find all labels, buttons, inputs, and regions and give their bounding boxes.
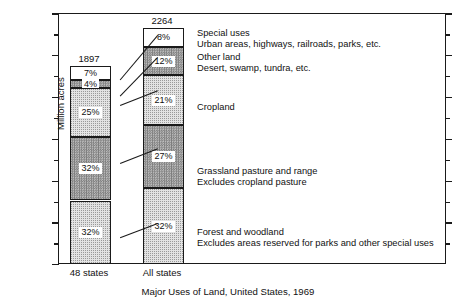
legend-other-land: Other land Desert, swamp, tundra, etc. xyxy=(197,52,311,74)
segment-percent-label: 27% xyxy=(152,151,174,162)
y-tick-minor-200 xyxy=(54,243,59,244)
legend-grassland-title: Grassland pasture and range xyxy=(197,166,317,177)
y-tick-major-right-400 xyxy=(445,222,452,223)
legend-forest-sub: Excludes areas reserved for parks and ot… xyxy=(197,238,434,249)
y-tick-major-1200 xyxy=(52,139,59,140)
chart-container: 0 400 800 1200 1600 2000 2400 xyxy=(0,0,456,304)
y-tick-major-right-2000 xyxy=(445,55,452,56)
segment-other-land-all: 12% xyxy=(143,47,184,75)
y-tick-minor-1000 xyxy=(54,160,59,161)
category-label-all-states: All states xyxy=(122,268,202,278)
y-tick-major-right-1600 xyxy=(445,97,452,98)
segment-forest-all: 32% xyxy=(143,188,184,263)
segment-percent-label: 21% xyxy=(152,95,174,106)
segment-percent-label: 7% xyxy=(82,68,99,79)
y-tick-major-right-800 xyxy=(445,181,452,182)
segment-percent-label: 25% xyxy=(79,107,101,118)
segment-percent-label: 32% xyxy=(152,221,174,232)
segment-forest-48: 32% xyxy=(70,201,111,264)
legend-other-land-title: Other land xyxy=(197,52,311,63)
segment-cropland-all: 21% xyxy=(143,75,184,124)
legend-forest-title: Forest and woodland xyxy=(197,227,434,238)
segment-other-land-48: 4% xyxy=(70,80,111,88)
y-tick-minor-right-1400 xyxy=(445,118,450,119)
legend-forest: Forest and woodland Excludes areas reser… xyxy=(197,227,434,249)
segment-percent-label: 12% xyxy=(152,56,174,67)
y-tick-minor-right-1800 xyxy=(445,76,450,77)
legend-special-uses-title: Special uses xyxy=(197,28,381,39)
bar-total-all-states: 2264 xyxy=(132,16,192,26)
legend-cropland: Cropland xyxy=(197,102,235,113)
y-tick-major-2000 xyxy=(52,55,59,56)
chart-caption: Major Uses of Land, United States, 1969 xyxy=(0,286,456,297)
legend-cropland-title: Cropland xyxy=(197,102,235,113)
y-tick-minor-right-2200 xyxy=(445,34,450,35)
y-tick-major-0 xyxy=(52,264,59,265)
y-tick-major-800 xyxy=(52,181,59,182)
y-axis-title: Million acres xyxy=(55,77,66,130)
y-tick-minor-right-1000 xyxy=(445,160,450,161)
y-tick-minor-right-600 xyxy=(445,202,450,203)
segment-special-uses-all: 8% xyxy=(143,28,184,47)
segment-cropland-48: 25% xyxy=(70,88,111,137)
legend-grassland: Grassland pasture and range Excludes cro… xyxy=(197,166,317,188)
y-tick-major-2400 xyxy=(52,13,59,14)
segment-grassland-all: 27% xyxy=(143,125,184,189)
y-tick-minor-right-200 xyxy=(445,243,450,244)
y-tick-minor-2200 xyxy=(54,34,59,35)
y-tick-minor-600 xyxy=(54,202,59,203)
y-tick-major-right-1200 xyxy=(445,139,452,140)
segment-grassland-48: 32% xyxy=(70,137,111,200)
legend-special-uses: Special uses Urban areas, highways, rail… xyxy=(197,28,381,50)
legend-special-uses-sub: Urban areas, highways, railroads, parks,… xyxy=(197,39,381,50)
segment-percent-label: 8% xyxy=(155,32,172,43)
segment-percent-label: 32% xyxy=(79,227,101,238)
segment-percent-label: 32% xyxy=(79,163,101,174)
y-tick-major-400 xyxy=(52,222,59,223)
bar-total-48-states: 1897 xyxy=(59,54,119,64)
category-label-48-states: 48 states xyxy=(49,268,129,278)
y-tick-major-right-2400 xyxy=(445,13,452,14)
legend-other-land-sub: Desert, swamp, tundra, etc. xyxy=(197,63,311,74)
legend-grassland-sub: Excludes cropland pasture xyxy=(197,177,317,188)
